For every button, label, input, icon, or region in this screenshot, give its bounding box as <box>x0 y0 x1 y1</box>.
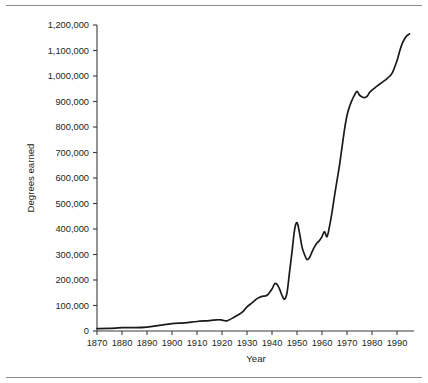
x-tick-label: 1920 <box>212 338 233 348</box>
y-tick-label: 600,000 <box>55 173 89 183</box>
y-tick-label: 500,000 <box>55 199 89 209</box>
x-tick-label: 1970 <box>337 338 358 348</box>
y-tick-label: 800,000 <box>55 122 89 132</box>
x-tick-label: 1980 <box>362 338 383 348</box>
y-tick-label: 1,100,000 <box>48 46 89 56</box>
x-tick-label: 1950 <box>287 338 308 348</box>
x-axis-group: 1870188018901900191019201930194019501960… <box>87 331 414 348</box>
y-axis-tick-labels: 0100,000200,000300,000400,000500,000600,… <box>48 20 89 336</box>
y-tick-label: 1,000,000 <box>48 71 89 81</box>
line-chart: 0100,000200,000300,000400,000500,000600,… <box>0 0 428 383</box>
x-axis-tick-labels: 1870188018901900191019201930194019501960… <box>87 338 408 348</box>
figure-container: 0100,000200,000300,000400,000500,000600,… <box>0 0 428 383</box>
x-tick-label: 1990 <box>387 338 408 348</box>
y-tick-label: 900,000 <box>55 97 89 107</box>
y-axis-ticks <box>93 25 97 331</box>
x-tick-label: 1940 <box>262 338 283 348</box>
x-tick-label: 1880 <box>112 338 133 348</box>
x-tick-label: 1900 <box>162 338 183 348</box>
x-axis-title: Year <box>246 353 266 364</box>
y-tick-label: 300,000 <box>55 250 89 260</box>
y-tick-label: 200,000 <box>55 275 89 285</box>
x-tick-label: 1910 <box>187 338 208 348</box>
x-axis-ticks <box>97 331 397 335</box>
x-tick-label: 1960 <box>312 338 333 348</box>
y-tick-label: 400,000 <box>55 224 89 234</box>
y-tick-label: 700,000 <box>55 148 89 158</box>
x-tick-label: 1870 <box>87 338 108 348</box>
x-tick-label: 1890 <box>137 338 158 348</box>
y-tick-label: 100,000 <box>55 301 89 311</box>
x-tick-label: 1930 <box>237 338 258 348</box>
data-series-degrees-earned <box>97 34 410 329</box>
y-tick-label: 1,200,000 <box>48 20 89 30</box>
y-axis-title: Degrees earned <box>25 144 36 213</box>
y-tick-label: 0 <box>84 326 89 336</box>
y-axis-group: 0100,000200,000300,000400,000500,000600,… <box>48 20 97 336</box>
